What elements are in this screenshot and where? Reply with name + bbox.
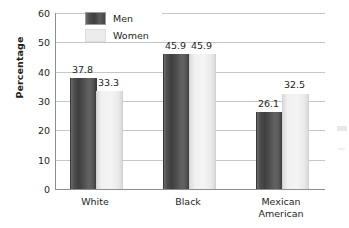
y-axis-title: Percentage (14, 23, 25, 113)
bar-chart: Percentage 60 50 40 30 20 10 0 (0, 0, 349, 228)
value-label-black-men: 45.9 (165, 40, 186, 51)
scan-edge-artifact (337, 126, 347, 131)
x-category-label-white: White (81, 196, 109, 208)
legend-item-women: Women (85, 27, 163, 43)
x-category-label-white-line1: White (81, 196, 109, 208)
bar-mexican-american-women (282, 94, 309, 189)
y-tick-label-40: 40 (38, 66, 50, 77)
value-label-mexican-american-men: 26.1 (258, 98, 279, 109)
x-category-label-mexican-american-line1: Mexican (258, 196, 303, 208)
y-tick-label-50: 50 (38, 37, 50, 48)
value-label-white-men: 37.8 (72, 64, 93, 75)
bar-white-women (96, 91, 123, 189)
y-tick-label-60: 60 (38, 8, 50, 19)
legend: Men Women (85, 10, 163, 44)
scan-edge-artifact-secondary (338, 148, 345, 150)
legend-swatch-men-icon (85, 12, 106, 25)
legend-item-men: Men (85, 10, 163, 26)
y-tick-label-30: 30 (38, 96, 50, 107)
value-label-black-women: 45.9 (191, 40, 212, 51)
value-label-mexican-american-women: 32.5 (284, 79, 305, 90)
x-category-label-black-line1: Black (175, 196, 201, 208)
y-tick-label-20: 20 (38, 125, 50, 136)
value-label-white-women: 33.3 (98, 77, 119, 88)
bar-black-women (189, 54, 216, 189)
bar-mexican-american-men (256, 112, 283, 189)
legend-label-women: Women (113, 30, 149, 41)
x-category-label-black: Black (175, 196, 201, 208)
y-tick-label-10: 10 (38, 154, 50, 165)
legend-label-men: Men (113, 13, 133, 24)
legend-swatch-women-icon (85, 29, 106, 42)
bar-white-men (70, 78, 97, 189)
x-axis-line (55, 189, 325, 190)
y-tick-label-0: 0 (44, 184, 50, 195)
x-category-label-mexican-american: Mexican American (258, 196, 303, 220)
bar-black-men (163, 54, 190, 189)
x-category-label-mexican-american-line2: American (258, 208, 303, 220)
